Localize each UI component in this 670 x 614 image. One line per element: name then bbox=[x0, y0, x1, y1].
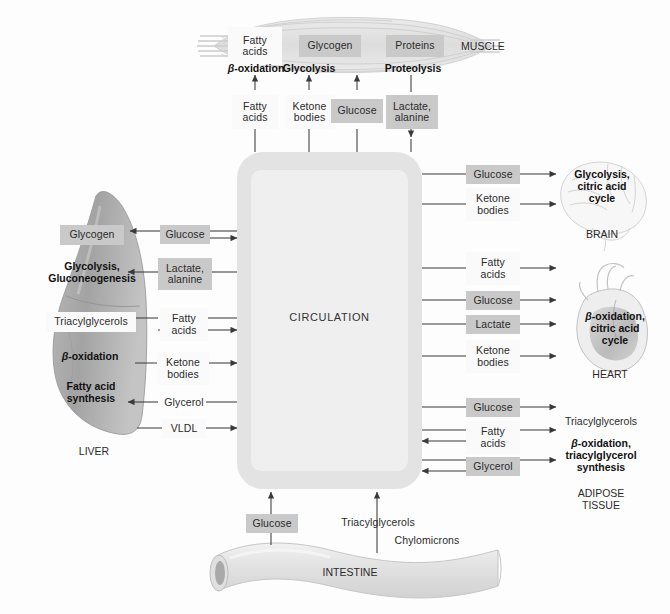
muscle-metabolite-glucose: Glucose bbox=[331, 99, 383, 123]
muscle-process-proteolysis: Proteolysis bbox=[376, 62, 450, 74]
intestine-metabolite-glucose: Glucose bbox=[246, 514, 298, 533]
liver-metabolite-ketone-bodies: Ketone bodies bbox=[157, 352, 209, 385]
heart-metabolite-fatty-acids: Fatty acids bbox=[466, 252, 520, 285]
adipose-processes: β-oxidation,triacylglycerolsynthesis bbox=[546, 437, 656, 473]
adipose-triacylglycerols: Triacylglycerols bbox=[546, 415, 656, 427]
liver-metabolite-glucose: Glucose bbox=[160, 225, 210, 244]
muscle-process-glycolysis: Glycolysis bbox=[272, 62, 346, 74]
liver-caption: LIVER bbox=[62, 445, 126, 457]
muscle-caption: MUSCLE bbox=[452, 40, 514, 52]
liver-metabolite-vldl: VLDL bbox=[162, 419, 206, 438]
muscle-metabolite-lactate-alanine: Lactate, alanine bbox=[386, 95, 438, 129]
adipose-metabolite-glucose: Glucose bbox=[466, 398, 520, 417]
heart-metabolite-glucose: Glucose bbox=[466, 291, 520, 310]
liver-glycogen: Glycogen bbox=[60, 225, 124, 245]
figure-canvas: CIRCULATION bbox=[0, 0, 670, 614]
brain-processes: Glycolysis, citric acid cycle bbox=[560, 168, 644, 204]
muscle-metabolite-ketone-bodies: Ketone bodies bbox=[285, 95, 334, 129]
intestine-caption: INTESTINE bbox=[310, 566, 390, 578]
adipose-caption: ADIPOSE TISSUE bbox=[564, 487, 638, 511]
muscle-metabolite-fatty-acids: Fatty acids bbox=[232, 95, 278, 129]
liver-glycolysis-gluconeogenesis: Glycolysis, Gluconeogenesis bbox=[36, 260, 148, 284]
liver-fatty-acid-synthesis: Fatty acid synthesis bbox=[46, 380, 136, 404]
intestine-metabolite-triacylglycerols: Triacylglycerols bbox=[330, 514, 426, 531]
adipose-metabolite-fatty-acids: Fatty acids bbox=[466, 421, 520, 454]
adipose-metabolite-glycerol: Glycerol bbox=[466, 457, 520, 476]
brain-caption: BRAIN bbox=[570, 228, 634, 240]
brain-metabolite-glucose: Glucose bbox=[466, 165, 520, 184]
liver-beta-oxidation: β-oxidation bbox=[44, 350, 136, 362]
heart-caption: HEART bbox=[578, 368, 642, 380]
intestine-metabolite-chylomicrons: Chylomicrons bbox=[382, 532, 472, 549]
brain-metabolite-ketone-bodies: Ketone bodies bbox=[466, 188, 520, 221]
heart-metabolite-lactate: Lactate bbox=[466, 315, 520, 334]
muscle-store-proteins: Proteins bbox=[386, 35, 444, 57]
liver-metabolite-fatty-acids: Fatty acids bbox=[160, 308, 208, 341]
liver-metabolite-glycerol: Glycerol bbox=[158, 394, 210, 411]
liver-triacylglycerols: Triacylglycerols bbox=[46, 312, 136, 332]
liver-metabolite-lactate-alanine: Lactate, alanine bbox=[158, 258, 212, 290]
heart-metabolite-ketone-bodies: Ketone bodies bbox=[466, 340, 520, 373]
circulation-label: CIRCULATION bbox=[251, 311, 408, 323]
heart-processes: β-oxidation,citric acidcycle bbox=[572, 310, 658, 346]
muscle-store-glycogen: Glycogen bbox=[299, 35, 361, 57]
muscle-store-fatty-acids: Fatty acids bbox=[228, 27, 282, 65]
